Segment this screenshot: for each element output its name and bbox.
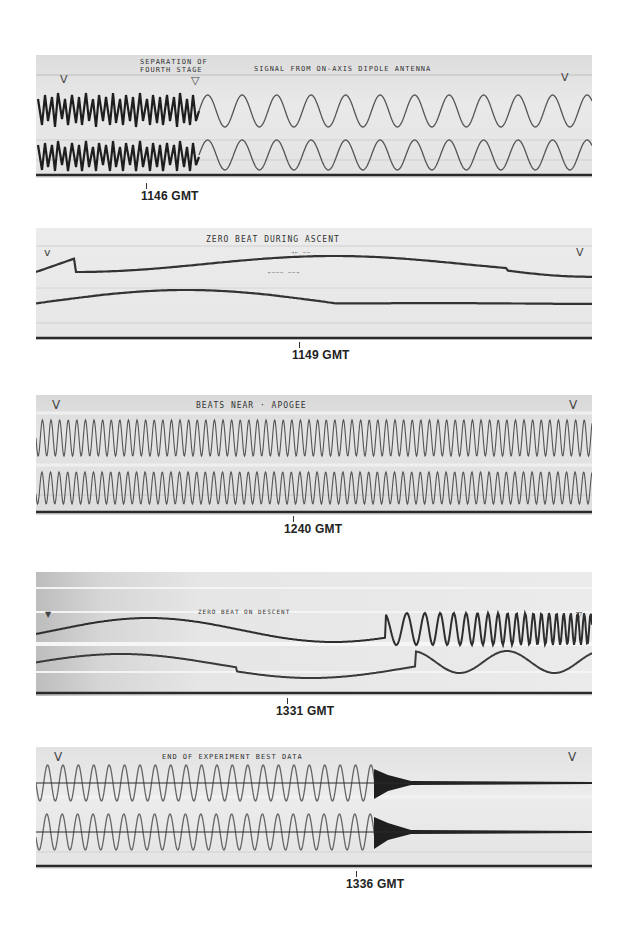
svg-text:BEATS NEAR · APOGEE: BEATS NEAR · APOGEE bbox=[196, 401, 307, 410]
time-label: 1331 GMT bbox=[276, 704, 334, 718]
svg-text:V: V bbox=[576, 246, 584, 259]
svg-text:SEPARATION OF: SEPARATION OF bbox=[140, 58, 208, 66]
strip-chart: ZERO BEAT ON DESCENT ▼ ▽ bbox=[36, 572, 592, 696]
svg-text:v: v bbox=[44, 246, 51, 259]
strip-panel-1146: SEPARATION OF FOURTH STAGE SIGNAL FROM O… bbox=[36, 55, 592, 215]
time-label: 1336 GMT bbox=[346, 877, 404, 891]
svg-text:V: V bbox=[561, 71, 569, 84]
svg-text:V: V bbox=[568, 750, 577, 764]
strip-chart: ZERO BEAT DURING ASCENT v V →← —— ←——— —… bbox=[36, 228, 592, 340]
svg-text:FOURTH STAGE: FOURTH STAGE bbox=[140, 66, 203, 74]
svg-text:V: V bbox=[569, 398, 578, 412]
strip-panel-1331: ZERO BEAT ON DESCENT ▼ ▽ 1331 GMT bbox=[36, 572, 592, 722]
svg-text:→← ——: →← —— bbox=[291, 249, 311, 255]
svg-text:←——— ——→: ←——— ——→ bbox=[268, 269, 300, 275]
strip-chart: END OF EXPERIMENT BEST DATA V V bbox=[36, 747, 592, 869]
strip-chart: SEPARATION OF FOURTH STAGE SIGNAL FROM O… bbox=[36, 55, 592, 178]
svg-text:SIGNAL FROM ON-AXIS DIPOLE ANT: SIGNAL FROM ON-AXIS DIPOLE ANTENNA bbox=[254, 65, 431, 73]
time-label: 1240 GMT bbox=[284, 522, 342, 536]
waveform-plot: BEATS NEAR · APOGEE V V bbox=[36, 395, 592, 515]
strip-panel-1240: BEATS NEAR · APOGEE V V 1240 GMT bbox=[36, 395, 592, 545]
time-label: 1149 GMT bbox=[292, 348, 350, 362]
waveform-plot: END OF EXPERIMENT BEST DATA V V bbox=[36, 747, 592, 869]
strip-panel-1336: END OF EXPERIMENT BEST DATA V V 1336 GMT bbox=[36, 747, 592, 927]
strip-panel-1149: ZERO BEAT DURING ASCENT v V →← —— ←——— —… bbox=[36, 228, 592, 378]
svg-text:ZERO BEAT DURING ASCENT: ZERO BEAT DURING ASCENT bbox=[206, 235, 340, 244]
svg-text:ZERO BEAT ON DESCENT: ZERO BEAT ON DESCENT bbox=[198, 608, 290, 615]
time-label: 1146 GMT bbox=[141, 189, 199, 203]
svg-text:V: V bbox=[52, 398, 61, 412]
strip-chart: BEATS NEAR · APOGEE V V bbox=[36, 395, 592, 515]
svg-text:▼: ▼ bbox=[45, 610, 52, 619]
waveform-plot: ZERO BEAT DURING ASCENT v V →← —— ←——— —… bbox=[36, 228, 592, 340]
svg-text:V: V bbox=[60, 73, 68, 86]
waveform-plot: ZERO BEAT ON DESCENT ▼ ▽ bbox=[36, 572, 592, 696]
svg-text:V: V bbox=[54, 750, 63, 764]
waveform-plot: SEPARATION OF FOURTH STAGE SIGNAL FROM O… bbox=[36, 55, 592, 178]
svg-text:END OF EXPERIMENT BEST: END OF EXPERIMENT BEST DATA bbox=[162, 753, 303, 761]
svg-text:▽: ▽ bbox=[191, 74, 200, 87]
